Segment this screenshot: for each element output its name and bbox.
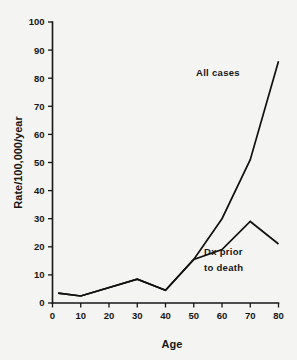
x-axis-tick-label: 60 [217,310,228,321]
y-axis-tick-label: 90 [34,45,45,56]
y-axis-tick-label: 70 [34,101,45,112]
y-axis-tick-label: 60 [34,129,45,140]
x-axis-title: Age [162,338,183,350]
y-axis-tick-label: 0 [39,297,44,308]
series-annotation-dx-prior-line1: Dx prior [204,246,243,257]
y-axis-tick-label: 100 [29,16,45,27]
series-annotation-all-cases: All cases [196,67,240,78]
x-axis-tick-label: 30 [132,310,143,321]
x-axis-ticks: 01020304050607080 [50,303,284,321]
series-line-all-cases [58,61,278,296]
x-axis-tick-label: 40 [160,310,171,321]
y-axis-tick-label: 30 [34,213,45,224]
y-axis-tick-label: 80 [34,73,45,84]
y-axis-ticks: 0102030405060708090100 [29,16,53,308]
x-axis-tick-label: 0 [50,310,55,321]
series-line-dx-prior-to-death [58,222,278,296]
x-axis-tick-label: 70 [245,310,256,321]
data-series-group [58,61,278,296]
x-axis-tick-label: 10 [75,310,86,321]
x-axis-tick-label: 50 [188,310,199,321]
y-axis-tick-label: 40 [34,185,45,196]
y-axis-tick-label: 10 [34,269,45,280]
y-axis-title: Rate/100,000/year [12,116,24,209]
y-axis-tick-label: 50 [34,157,45,168]
line-chart-plot: 0102030405060708090100 01020304050607080… [0,0,297,360]
chart-figure: 0102030405060708090100 01020304050607080… [0,0,297,360]
y-axis-tick-label: 20 [34,241,45,252]
axes-group [53,22,279,303]
x-axis-tick-label: 80 [273,310,284,321]
series-annotation-dx-prior-line2: to death [204,262,243,273]
x-axis-tick-label: 20 [104,310,115,321]
